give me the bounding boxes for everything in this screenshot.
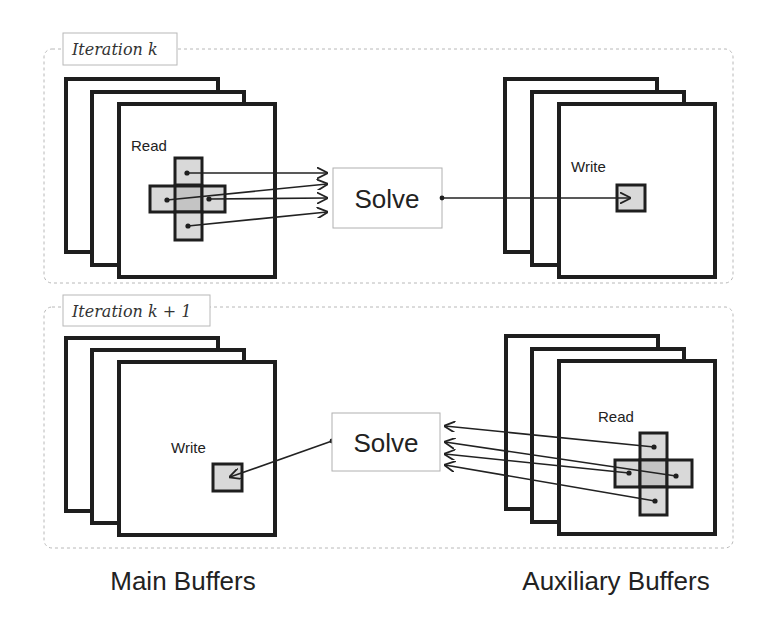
- main-buffer-stack-bottom: Write: [66, 338, 275, 535]
- main-buffer-stack-top: Read: [66, 79, 275, 277]
- auxiliary-buffer-stack-top: Write: [505, 79, 715, 277]
- iteration-k1-label: Iteration k + 1: [71, 302, 191, 321]
- read-label: Read: [131, 137, 167, 154]
- iteration-k-label: Iteration k: [71, 40, 158, 59]
- solve-label-k1: Solve: [353, 428, 418, 458]
- solve-label-k: Solve: [354, 184, 419, 214]
- auxiliary-buffers-caption: Auxiliary Buffers: [522, 566, 709, 596]
- write-label: Write: [571, 158, 606, 175]
- iteration-k1-group: Iteration k + 1 Write Solve Read: [44, 295, 733, 548]
- buffer-panel-front: [559, 361, 715, 534]
- diagram-canvas: Iteration k Read: [0, 0, 778, 634]
- read-label: Read: [598, 408, 634, 425]
- write-cell: [213, 464, 242, 491]
- iteration-k-group: Iteration k Read: [44, 33, 733, 283]
- main-buffers-caption: Main Buffers: [110, 566, 255, 596]
- write-label: Write: [171, 439, 206, 456]
